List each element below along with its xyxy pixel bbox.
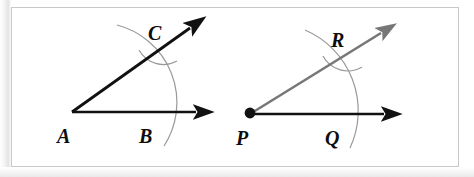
vertex-label-A: A	[55, 125, 70, 147]
angle-A-group: A B C	[55, 22, 196, 147]
point-label-R: R	[330, 29, 344, 51]
geometry-diagram: A B C P Q R	[0, 0, 474, 177]
point-label-Q: Q	[325, 127, 339, 149]
vertex-dot-P	[245, 108, 256, 119]
point-label-C: C	[148, 22, 162, 44]
angle-P-group: P Q R	[235, 29, 384, 149]
ray-AC	[72, 28, 190, 112]
vertex-label-P: P	[235, 127, 249, 149]
geometry-figure-root: A B C P Q R	[0, 0, 474, 177]
point-label-B: B	[138, 125, 152, 147]
ray-PR	[250, 33, 381, 114]
